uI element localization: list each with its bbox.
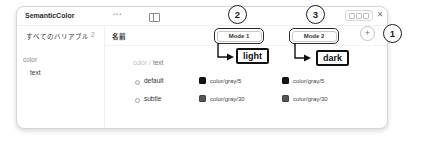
group-path: color/text [133, 59, 163, 66]
screenshot-root: SemanticColor ••• ✕ すべてのバリアブル 2 color te… [0, 0, 421, 149]
color-swatch[interactable] [199, 77, 206, 84]
collection-menu-button[interactable]: ••• [113, 11, 122, 17]
variable-icon [135, 80, 140, 85]
sidebar-divider [104, 25, 105, 128]
dark-arrow [291, 43, 317, 65]
step-1-number: 1 [390, 28, 395, 39]
mode-1-label: Mode 1 [217, 31, 262, 42]
step-3-number: 3 [313, 9, 318, 20]
name-column-header: 名前 [112, 31, 126, 41]
group-path-separator: / [149, 59, 151, 66]
variable-icon [135, 98, 140, 103]
sidebar-group-color[interactable]: color [23, 56, 37, 63]
value-label[interactable]: color/gray/5 [293, 78, 324, 84]
light-label: light [236, 48, 269, 64]
step-2-number: 2 [235, 9, 240, 20]
step-3-badge: 3 [306, 5, 325, 24]
color-swatch[interactable] [282, 95, 289, 102]
expand-icon[interactable] [363, 13, 369, 19]
minimize-icon[interactable] [349, 13, 355, 19]
variables-count: 2 [91, 31, 95, 38]
mode-2-label: Mode 2 [292, 31, 337, 42]
window-size-controls[interactable] [345, 10, 373, 21]
color-swatch[interactable] [282, 77, 289, 84]
step-2-badge: 2 [228, 5, 247, 24]
value-label[interactable]: color/gray/5 [210, 78, 241, 84]
resize-icon[interactable] [356, 13, 362, 19]
mode-1-button[interactable]: Mode 1 [214, 28, 264, 44]
sidebar-item-text[interactable]: text [30, 69, 40, 76]
column-header-divider [104, 45, 387, 46]
group-path-name: text [153, 59, 163, 66]
mode-2-button[interactable]: Mode 2 [289, 28, 339, 44]
variables-panel: SemanticColor ••• ✕ すべてのバリアブル 2 color te… [16, 6, 388, 129]
sidebar-toggle-icon[interactable] [149, 13, 160, 22]
value-label[interactable]: color/gray/30 [210, 96, 245, 102]
value-label[interactable]: color/gray/30 [293, 96, 328, 102]
dark-label: dark [316, 50, 349, 66]
sidebar-item-all-variables[interactable]: すべてのバリアブル [26, 31, 89, 41]
step-1-badge: 1 [383, 24, 402, 43]
variable-name: default [144, 77, 164, 84]
variable-name: subtle [144, 95, 161, 102]
group-path-prefix: color [133, 59, 147, 66]
color-swatch[interactable] [199, 95, 206, 102]
add-mode-button[interactable]: + [360, 26, 375, 41]
collection-title: SemanticColor [25, 12, 74, 19]
header-divider [17, 25, 387, 26]
close-icon[interactable]: ✕ [374, 9, 386, 21]
